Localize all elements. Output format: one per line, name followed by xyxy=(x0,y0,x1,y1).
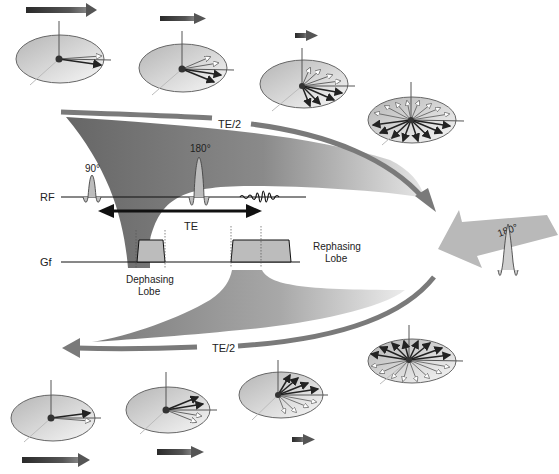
spin-disk-top-1 xyxy=(16,21,111,85)
spin-disk-bottom-1 xyxy=(368,325,463,384)
net-magnetization-arrow-bottom-2 xyxy=(157,446,204,458)
net-magnetization-arrow-top-2 xyxy=(160,13,206,24)
pulse-180-label: 180° xyxy=(190,143,211,154)
te-label: TE xyxy=(184,220,198,232)
dephasing-label-line1: Dephasing xyxy=(126,274,174,285)
refocusing-180-arrow xyxy=(438,210,558,268)
spin-disk-top-3 xyxy=(260,48,355,111)
dephasing-label-line2: Lobe xyxy=(138,286,161,297)
rephasing-label-line1: Rephasing xyxy=(313,241,361,252)
spin-disk-bottom-4 xyxy=(11,380,101,442)
spin-echo-diagram: TE/2 180° RF 90° 180° TE Gf Dephasing Lo… xyxy=(0,0,559,474)
rephasing-label-line2: Lobe xyxy=(325,253,348,264)
te-half-label-top: TE/2 xyxy=(218,118,241,130)
dephasing-lobe xyxy=(137,240,165,262)
net-magnetization-arrow-bottom-1 xyxy=(292,434,315,445)
spin-disk-top-2 xyxy=(139,31,234,95)
spin-disk-bottom-3 xyxy=(126,372,217,434)
net-magnetization-arrow-bottom-3 xyxy=(22,453,90,467)
pulse-90 xyxy=(83,175,101,202)
net-magnetization-arrow-top-3 xyxy=(295,30,318,41)
gf-label: Gf xyxy=(40,256,53,268)
net-magnetization-arrow-top-1 xyxy=(26,3,97,17)
pulse-90-label: 90° xyxy=(85,163,100,174)
te-half-label-bottom: TE/2 xyxy=(212,342,235,354)
spin-disk-top-4 xyxy=(368,82,464,145)
rf-label: RF xyxy=(40,191,55,203)
spin-disk-bottom-2 xyxy=(239,360,328,420)
